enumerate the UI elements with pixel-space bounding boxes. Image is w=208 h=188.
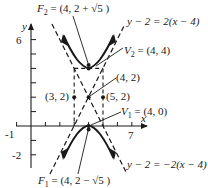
focus-f1-label: F1 = (4, 2 − √5 ) [37, 174, 111, 188]
hyperbola-figure: y x 6 -2 -1 7 [0, 0, 208, 188]
y-axis-label: y [21, 20, 27, 32]
x-tick-label-neg1: -1 [5, 128, 14, 140]
focus-f2-label: F2 = (4, 2 + √5 ) [36, 2, 110, 17]
y-tick-label-6: 6 [16, 34, 22, 46]
vertex-v2-dot [87, 66, 91, 70]
asymptote-negative-label: y − 2 = −2(x − 4) [126, 158, 207, 171]
right-point-label: (5, 2) [106, 90, 130, 103]
y-tick-label-neg2: -2 [12, 149, 21, 161]
left-point-label: (3, 2) [45, 90, 69, 103]
focus-f1-dot [87, 127, 91, 131]
asymptote-positive-label: y − 2 = 2(x − 4) [126, 15, 200, 28]
left-point-dot [72, 95, 76, 99]
vertex-v2-label: V2 = (4, 4) [124, 44, 171, 59]
x-tick-label-7: 7 [128, 129, 134, 141]
right-point-dot [101, 95, 105, 99]
center-label: (4, 2) [116, 71, 140, 84]
y-ticks [31, 40, 36, 155]
